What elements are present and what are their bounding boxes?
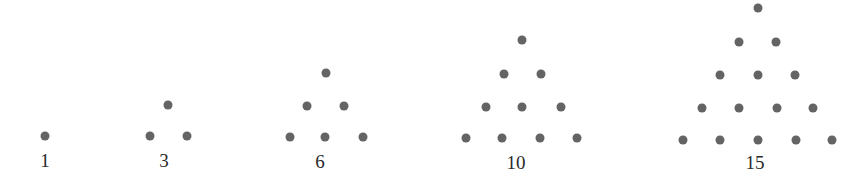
figure-count-label: 15 [746, 153, 765, 172]
dot [536, 134, 545, 143]
dot [359, 133, 368, 142]
dot [735, 104, 744, 113]
dot [164, 101, 173, 110]
dot [321, 133, 330, 142]
dot [462, 134, 471, 143]
dot [482, 103, 491, 112]
dot [828, 136, 837, 145]
dot [41, 132, 50, 141]
figure-count-label: 3 [159, 151, 169, 170]
dot [340, 102, 349, 111]
dot [772, 38, 781, 47]
dot [791, 71, 800, 80]
dot [183, 132, 192, 141]
dot [716, 71, 725, 80]
dot [792, 136, 801, 145]
figure-count-label: 6 [315, 152, 325, 171]
dot [518, 103, 527, 112]
dot [773, 104, 782, 113]
dot [146, 132, 155, 141]
dot [754, 136, 763, 145]
dot [809, 104, 818, 113]
figure-count-label: 1 [40, 151, 50, 170]
triangular-numbers-diagram: 1361015 [0, 0, 862, 181]
dot [735, 38, 744, 47]
dot [698, 104, 707, 113]
figure-count-label: 10 [507, 153, 526, 172]
dot [679, 136, 688, 145]
dot [498, 134, 507, 143]
dot [754, 71, 763, 80]
dot [518, 36, 527, 45]
dot [573, 134, 582, 143]
dot [303, 102, 312, 111]
dot [537, 70, 546, 79]
dot [500, 70, 509, 79]
dot [322, 69, 331, 78]
dot [286, 133, 295, 142]
dot [754, 4, 763, 13]
dot [557, 103, 566, 112]
dot [716, 136, 725, 145]
